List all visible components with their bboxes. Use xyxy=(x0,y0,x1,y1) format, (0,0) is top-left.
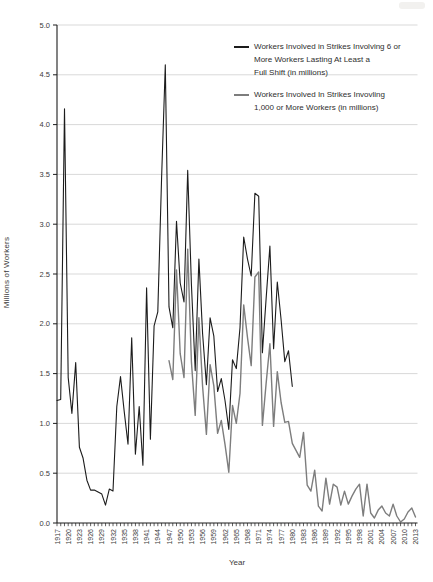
legend: Workers Involved in Strikes Involving 6 … xyxy=(234,40,433,123)
x-tick-label: 1923 xyxy=(76,529,83,545)
y-tick-label: 0.5 xyxy=(40,469,50,478)
x-tick-label: 1971 xyxy=(255,529,262,545)
series-line xyxy=(57,65,292,505)
x-tick-label: 2001 xyxy=(367,529,374,545)
y-tick-label: 1.0 xyxy=(40,419,50,428)
x-tick-label: 1995 xyxy=(345,529,352,545)
x-tick-label: 1989 xyxy=(322,529,329,545)
y-tick-label: 1.5 xyxy=(40,369,50,378)
x-tick-label: 1941 xyxy=(143,529,150,545)
y-tick-label: 0.0 xyxy=(40,519,50,528)
black-line-swatch xyxy=(234,46,249,48)
x-tick-label: 2004 xyxy=(378,529,385,545)
x-tick-label: 1944 xyxy=(154,529,161,545)
x-tick-label: 1983 xyxy=(300,529,307,545)
legend-label-line: More Workers Lasting At Least a xyxy=(254,53,401,66)
legend-entry-thousand-plus-series: Workers Involved In Strikes Invovling 1,… xyxy=(234,88,433,114)
y-tick-label: 4.0 xyxy=(40,120,50,129)
legend-label-line: 1,000 or More Workers (in millions) xyxy=(254,101,385,114)
x-tick-label: 1947 xyxy=(166,529,173,545)
x-tick-label: 1920 xyxy=(65,529,72,545)
x-tick-label: 1938 xyxy=(132,529,139,545)
legend-entry-full-shift-series: Workers Involved in Strikes Involving 6 … xyxy=(234,40,433,79)
x-tick-label: 1968 xyxy=(244,529,251,545)
x-tick-label: 1932 xyxy=(110,529,117,545)
x-tick-label: 1929 xyxy=(98,529,105,545)
y-tick-label: 4.5 xyxy=(40,70,50,79)
y-tick-label: 3.0 xyxy=(40,220,50,229)
x-tick-label: 1998 xyxy=(356,529,363,545)
legend-label-line: Workers Involved In Strikes Invovling xyxy=(254,88,385,101)
x-tick-label: 1992 xyxy=(334,529,341,545)
x-tick-label: 1962 xyxy=(222,529,229,545)
x-tick-label: 1974 xyxy=(266,529,273,545)
legend-label-line: Full Shift (in millions) xyxy=(254,66,401,79)
x-tick-label: 1980 xyxy=(289,529,296,545)
x-tick-label: 1956 xyxy=(199,529,206,545)
x-tick-label: 2007 xyxy=(390,529,397,545)
x-tick-label: 1986 xyxy=(311,529,318,545)
x-tick-label: 1917 xyxy=(54,529,61,545)
x-tick-label: 1935 xyxy=(121,529,128,545)
x-tick-label: 2010 xyxy=(401,529,408,545)
x-tick-label: 1950 xyxy=(177,529,184,545)
y-tick-label: 2.5 xyxy=(40,270,50,279)
legend-label-line: Workers Involved in Strikes Involving 6 … xyxy=(254,40,401,53)
gray-line-swatch xyxy=(234,94,249,96)
x-tick-label: 2013 xyxy=(412,529,419,545)
y-tick-label: 2.0 xyxy=(40,319,50,328)
strike-workers-chart-figure: 0.00.51.01.52.02.53.03.54.04.55.01917192… xyxy=(0,0,433,582)
x-tick-label: 1977 xyxy=(278,529,285,545)
x-tick-label: 1953 xyxy=(188,529,195,545)
x-tick-label: 1965 xyxy=(233,529,240,545)
y-axis-title: Millions of Workers xyxy=(2,203,11,343)
y-tick-label: 5.0 xyxy=(40,21,50,30)
y-tick-label: 3.5 xyxy=(40,170,50,179)
x-tick-label: 1959 xyxy=(210,529,217,545)
x-axis-title: Year xyxy=(57,558,417,567)
x-tick-label: 1926 xyxy=(87,529,94,545)
